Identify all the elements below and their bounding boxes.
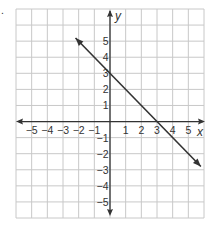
x-tick-label: −2 bbox=[73, 124, 85, 136]
x-tick-label: 5 bbox=[185, 124, 191, 136]
y-tick-label: 5 bbox=[103, 35, 109, 47]
y-tick-label: −2 bbox=[97, 148, 109, 160]
x-tick-label: −5 bbox=[26, 124, 38, 136]
y-tick-label: −5 bbox=[97, 196, 109, 208]
x-tick-label: 2 bbox=[138, 124, 144, 136]
y-tick-label: 1 bbox=[103, 99, 109, 111]
y-axis-down-arrow-icon bbox=[107, 209, 113, 216]
x-tick-label: 1 bbox=[123, 124, 129, 136]
y-tick-label: −3 bbox=[97, 164, 109, 176]
problem-marker: . bbox=[1, 4, 4, 16]
y-tick-label: −1 bbox=[97, 132, 109, 144]
x-tick-label: 4 bbox=[170, 124, 176, 136]
y-axis-label: y bbox=[114, 9, 122, 23]
y-tick-label: 2 bbox=[103, 83, 109, 95]
y-tick-label: 4 bbox=[103, 51, 109, 63]
x-tick-label: 3 bbox=[154, 124, 160, 136]
coordinate-plane: . −5−4−3−2−11234554321−1−2−3−4−5 x y bbox=[0, 0, 210, 231]
x-tick-label: −4 bbox=[41, 124, 53, 136]
x-tick-label: −3 bbox=[57, 124, 69, 136]
y-axis-up-arrow-icon bbox=[107, 10, 113, 17]
x-axis-label: x bbox=[196, 125, 204, 139]
x-axis-left-arrow-icon bbox=[16, 119, 23, 125]
y-tick-label: −4 bbox=[97, 180, 109, 192]
